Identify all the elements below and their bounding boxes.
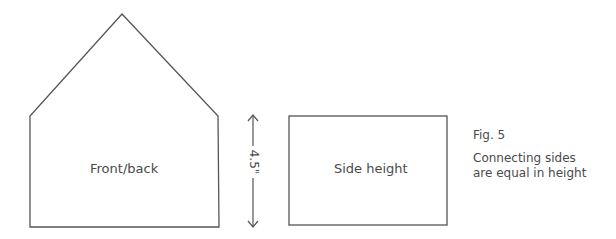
dimension-label: 4.5" <box>247 150 261 175</box>
caption-text: Connecting sides are equal in height <box>473 151 598 181</box>
front-back-shape <box>30 14 219 227</box>
front-back-label: Front/back <box>90 161 158 176</box>
diagram-canvas <box>0 0 616 239</box>
figure-caption: Fig. 5 Connecting sides are equal in hei… <box>473 128 616 181</box>
side-height-label: Side height <box>334 161 408 176</box>
figure-number: Fig. 5 <box>473 128 616 143</box>
